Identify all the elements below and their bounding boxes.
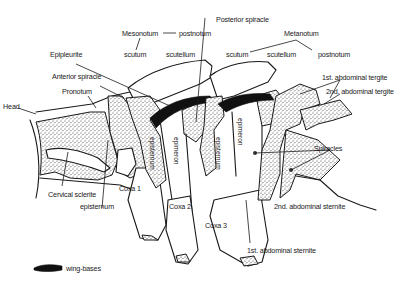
label-epimeron-meta: epimeron — [236, 118, 244, 146]
label-meso-scutellum: scutellum — [166, 50, 195, 59]
label-meta-scutellum: scutellum — [267, 50, 296, 59]
label-2nd-abdominal-tergite: 2nd. abdominal tergite — [326, 87, 394, 96]
label-coxa-1: Coxa 1 — [119, 184, 141, 193]
label-meta-postnotum: postnotum — [318, 50, 350, 59]
label-meso-scutum: scutum — [124, 50, 146, 59]
label-meta-scutum: scutum — [226, 50, 248, 59]
label-2nd-abdominal-sternite: 2nd. abdominal sternite — [274, 202, 345, 211]
thorax-diagram: wing-bases Head Pronotum Anterior spirac… — [0, 0, 407, 293]
label-head: Head — [3, 102, 20, 111]
label-metanotum: Metanotum — [284, 29, 319, 38]
label-coxa-3: Coxa 3 — [205, 221, 227, 230]
wing-base-legend-swatch — [34, 265, 62, 272]
label-episternum-meso: episternum — [148, 137, 156, 170]
label-coxa-2: Coxa 2 — [169, 202, 191, 211]
label-pronotum: Pronotum — [62, 87, 92, 96]
label-episternum-meta: episternum — [214, 137, 222, 170]
label-spiracles: Spiracles — [314, 144, 343, 153]
label-mesonotum: Mesonotum — [122, 29, 158, 38]
legend: wing-bases — [34, 264, 101, 273]
label-epimeron-meso: epimeron — [172, 137, 180, 165]
label-posterior-spiracle: Posterior spiracle — [216, 15, 269, 24]
label-meso-postnotum: postnotum — [179, 29, 211, 38]
label-epipleurite: Epipleurite — [50, 50, 82, 59]
legend-label: wing-bases — [65, 264, 101, 273]
label-anterior-spiracle: Anterior spiracle — [52, 72, 102, 81]
label-1st-abdominal-sternite: 1st. abdominal sternite — [247, 246, 316, 255]
label-cervical-sclerite: Cervical sclerite — [48, 190, 96, 199]
label-episternum-pro: episternum — [80, 202, 114, 211]
label-1st-abdominal-tergite: 1st. abdominal tergite — [322, 73, 388, 82]
